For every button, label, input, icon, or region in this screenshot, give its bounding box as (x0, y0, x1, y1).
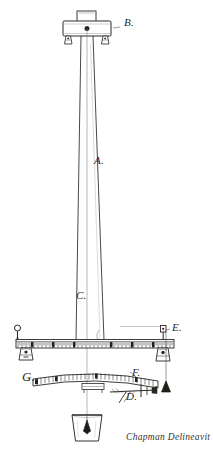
technical-drawing-svg (0, 0, 213, 454)
label-c: C. (76, 290, 87, 301)
label-leader-b (113, 27, 120, 28)
beam-right-clamp (156, 348, 170, 361)
label-a: A. (94, 155, 104, 166)
label-g: G. (22, 370, 35, 383)
hanging-weight (162, 381, 171, 392)
label-f: F. (132, 367, 140, 378)
graduated-beam (16, 340, 174, 349)
label-e: E. (172, 322, 182, 333)
beam-left-clamp (19, 348, 33, 360)
bracket-foot-left (65, 36, 73, 44)
label-b: B. (124, 17, 134, 28)
label-d: D. (126, 391, 137, 402)
bracket-foot-right (102, 36, 110, 44)
arm-slider-saddle (82, 384, 104, 394)
artist-signature: Chapman Delineavit (126, 433, 210, 443)
base-vessel (72, 415, 102, 441)
drawing-plate: B. A. C. E. F. G. D. Chapman Delineavit (0, 0, 213, 454)
